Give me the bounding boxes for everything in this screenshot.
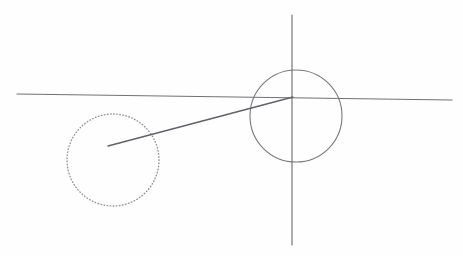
diagram-canvas (0, 0, 463, 256)
figure-background (0, 0, 463, 256)
geometry-figure (0, 0, 463, 256)
